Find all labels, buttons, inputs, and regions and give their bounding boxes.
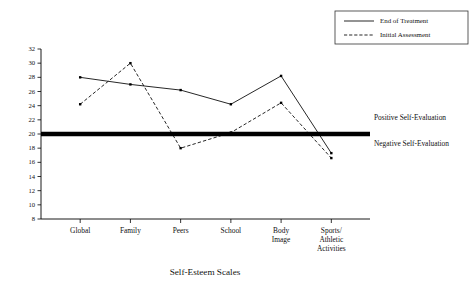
data-point-marker <box>129 62 131 64</box>
data-point-marker <box>280 75 282 77</box>
x-category-label: Global <box>70 226 90 235</box>
data-point-marker <box>280 102 282 104</box>
self-esteem-line-chart: 8101214161820222426283032 GlobalFamilyPe… <box>0 0 473 289</box>
data-point-marker <box>230 103 232 105</box>
y-tick-label: 28 <box>28 73 35 80</box>
data-point-marker <box>79 103 81 105</box>
data-point-marker <box>330 152 332 154</box>
y-tick-label: 10 <box>28 201 35 208</box>
y-tick-label: 8 <box>32 215 36 222</box>
y-tick-label: 12 <box>28 187 35 194</box>
data-point-marker <box>330 157 332 159</box>
y-tick-label: 18 <box>28 144 35 151</box>
x-category-label: Peers <box>173 226 189 235</box>
y-tick-label: 32 <box>28 45 35 52</box>
chart-container: 8101214161820222426283032 GlobalFamilyPe… <box>0 0 473 289</box>
x-category-label: Athletic <box>319 235 344 244</box>
y-axis-ticks: 8101214161820222426283032 <box>28 45 41 222</box>
annotation-positive-self-evaluation: Positive Self-Evaluation <box>374 113 446 122</box>
x-category-label: Family <box>120 226 141 235</box>
x-category-label: School <box>221 226 242 235</box>
y-tick-label: 20 <box>28 130 35 137</box>
x-category-label: Activities <box>317 244 346 253</box>
legend-label-end-of-treatment: End of Treatment <box>380 17 428 24</box>
x-category-label: Image <box>272 235 291 244</box>
x-category-label: Body <box>273 226 289 235</box>
y-tick-label: 16 <box>28 158 35 165</box>
legend-label-initial-assessment: Initial Assessment <box>380 31 430 38</box>
data-point-marker <box>79 76 81 78</box>
annotation-negative-self-evaluation: Negative Self-Evaluation <box>374 139 449 148</box>
series-line-end-of-treatment <box>80 76 331 153</box>
legend: End of Treatment Initial Assessment <box>335 11 468 44</box>
data-series-layer <box>79 62 333 159</box>
y-tick-label: 24 <box>28 102 35 109</box>
y-tick-label: 30 <box>28 59 35 66</box>
data-point-marker <box>129 83 131 85</box>
series-line-initial-assessment <box>80 63 331 158</box>
data-point-marker <box>179 89 181 91</box>
x-category-label: Sports/ <box>321 226 343 235</box>
x-axis-category-labels: GlobalFamilyPeersSchoolBodyImageSports/A… <box>70 226 346 253</box>
x-axis-title: Self-Esteem Scales <box>170 267 241 277</box>
y-tick-label: 22 <box>28 116 35 123</box>
y-tick-label: 14 <box>28 173 35 180</box>
y-tick-label: 26 <box>28 88 35 95</box>
data-point-marker <box>179 147 181 149</box>
x-axis-ticks <box>80 219 331 223</box>
